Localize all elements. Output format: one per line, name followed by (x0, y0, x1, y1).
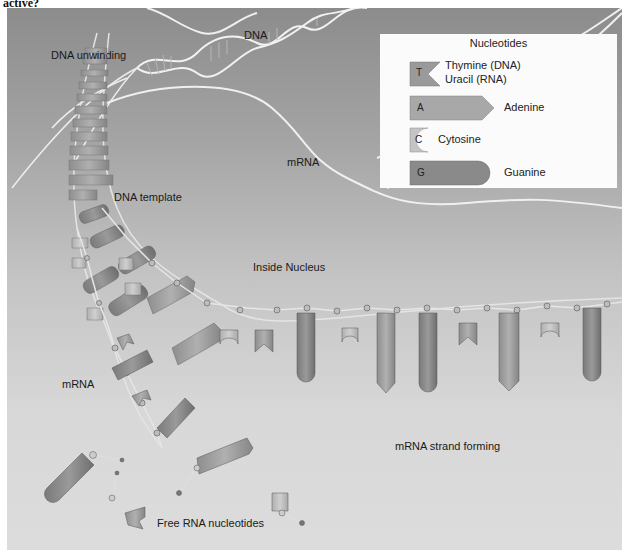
backbone-nodes (85, 256, 611, 437)
label-dna-template: DNA template (114, 191, 182, 203)
legend-thymine: Thymine (DNA) (445, 59, 521, 71)
label-dna: DNA (244, 29, 267, 41)
legend-letter-g: G (417, 167, 425, 178)
label-mrna-strand-forming: mRNA strand forming (395, 440, 500, 452)
label-dna-unwinding: DNA unwinding (51, 49, 126, 61)
thymine-uracil-shape-icon (410, 62, 440, 86)
legend-adenine: Adenine (504, 101, 544, 113)
nucleotides-legend: Nucleotides T Thymine (DNA) Uracil (RNA)… (380, 34, 617, 188)
label-mrna-left: mRNA (62, 378, 94, 390)
legend-letter-c: C (415, 134, 422, 145)
label-free-rna-nucleotides: Free RNA nucleotides (157, 517, 264, 529)
label-mrna-top: mRNA (287, 156, 319, 168)
legend-uracil: Uracil (RNA) (445, 73, 507, 85)
dna-rungs (147, 18, 317, 76)
label-inside-nucleus: Inside Nucleus (253, 261, 325, 273)
transcription-diagram: DNA DNA unwinding mRNA DNA template Insi… (7, 8, 622, 550)
legend-letter-t: T (416, 67, 422, 78)
legend-guanine: Guanine (504, 166, 546, 178)
legend-shapes (380, 34, 617, 188)
legend-letter-a: A (417, 102, 424, 113)
legend-cytosine: Cytosine (438, 133, 481, 145)
free-rna-nucleotides (45, 438, 305, 529)
